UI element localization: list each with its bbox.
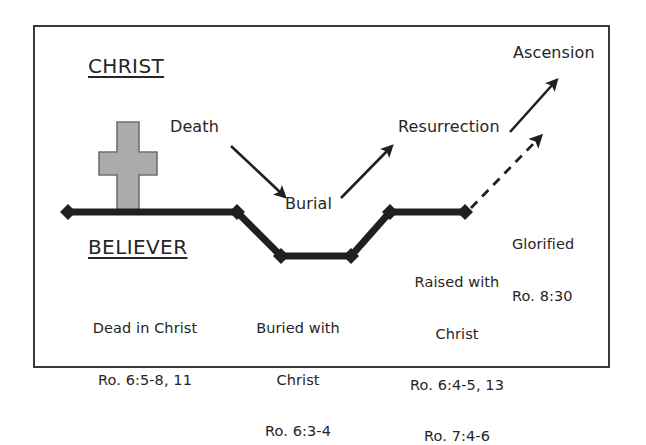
stage-note-line: Christ xyxy=(396,326,518,343)
stage-note-line: Christ xyxy=(238,372,358,389)
event-label-ascension: Ascension xyxy=(513,44,595,63)
stage-note-buried-with-christ: Buried with Christ Ro. 6:3-4 xyxy=(238,286,358,445)
stage-note-raised-with-christ: Raised with Christ Ro. 6:4-5, 13 Ro. 7:4… xyxy=(396,240,518,445)
stage-note-line: Raised with xyxy=(396,274,518,291)
stage-note-line: Buried with xyxy=(238,320,358,337)
christ-heading: CHRIST xyxy=(88,55,164,79)
stage-note-glorified: Glorified Ro. 8:30 xyxy=(512,202,612,339)
stage-note-line: Dead in Christ xyxy=(70,320,220,337)
stage-note-line: Ro. 6:4-5, 13 xyxy=(396,377,518,394)
stage-note-line: Glorified xyxy=(512,236,612,253)
event-label-burial: Burial xyxy=(285,195,332,214)
stage-note-dead-in-christ: Dead in Christ Ro. 6:5-8, 11 xyxy=(70,286,220,423)
stage-note-line: Ro. 6:5-8, 11 xyxy=(70,372,220,389)
event-label-death: Death xyxy=(170,118,219,137)
event-label-resurrection: Resurrection xyxy=(398,118,500,137)
stage-note-line: Ro. 8:30 xyxy=(512,288,612,305)
stage-note-line: Ro. 6:3-4 xyxy=(238,423,358,440)
stage-note-line: Ro. 7:4-6 xyxy=(396,428,518,445)
believer-heading: BELIEVER xyxy=(88,236,187,260)
